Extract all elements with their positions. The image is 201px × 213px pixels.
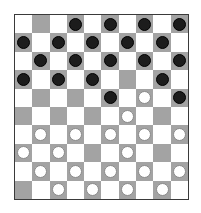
square-r3-c0[interactable]	[15, 70, 32, 88]
black-piece[interactable]	[104, 18, 117, 31]
white-piece[interactable]	[121, 110, 134, 123]
square-r3-c4[interactable]	[84, 70, 101, 88]
square-r3-c1	[32, 70, 49, 88]
square-r0-c3[interactable]	[67, 15, 84, 33]
black-piece[interactable]	[69, 18, 82, 31]
square-r6-c1[interactable]	[32, 125, 49, 143]
black-piece[interactable]	[17, 73, 30, 86]
square-r9-c0[interactable]	[15, 181, 32, 199]
square-r5-c4[interactable]	[84, 107, 101, 125]
square-r3-c6[interactable]	[119, 70, 136, 88]
white-piece[interactable]	[52, 183, 65, 196]
white-piece[interactable]	[69, 128, 82, 141]
square-r4-c5[interactable]	[101, 89, 118, 107]
square-r5-c8[interactable]	[153, 107, 170, 125]
square-r1-c6[interactable]	[119, 33, 136, 51]
white-piece[interactable]	[17, 146, 30, 159]
white-piece[interactable]	[173, 165, 186, 178]
square-r3-c8[interactable]	[153, 70, 170, 88]
white-piece[interactable]	[138, 91, 151, 104]
square-r1-c0[interactable]	[15, 33, 32, 51]
square-r0-c5[interactable]	[101, 15, 118, 33]
square-r1-c4[interactable]	[84, 33, 101, 51]
black-piece[interactable]	[86, 36, 99, 49]
square-r9-c9	[171, 181, 188, 199]
square-r7-c2[interactable]	[50, 144, 67, 162]
square-r0-c8	[153, 15, 170, 33]
square-r2-c1[interactable]	[32, 52, 49, 70]
black-piece[interactable]	[173, 18, 186, 31]
square-r7-c4[interactable]	[84, 144, 101, 162]
white-piece[interactable]	[104, 165, 117, 178]
black-piece[interactable]	[173, 91, 186, 104]
square-r1-c9	[171, 33, 188, 51]
square-r0-c9[interactable]	[171, 15, 188, 33]
white-piece[interactable]	[121, 146, 134, 159]
black-piece[interactable]	[121, 36, 134, 49]
black-piece[interactable]	[52, 36, 65, 49]
white-piece[interactable]	[34, 165, 47, 178]
square-r1-c8[interactable]	[153, 33, 170, 51]
square-r5-c6[interactable]	[119, 107, 136, 125]
square-r6-c9[interactable]	[171, 125, 188, 143]
square-r2-c7[interactable]	[136, 52, 153, 70]
square-r7-c0[interactable]	[15, 144, 32, 162]
square-r1-c7	[136, 33, 153, 51]
square-r8-c9[interactable]	[171, 162, 188, 180]
draughts-board	[14, 14, 189, 200]
square-r6-c3[interactable]	[67, 125, 84, 143]
white-piece[interactable]	[86, 183, 99, 196]
square-r9-c4[interactable]	[84, 181, 101, 199]
square-r3-c9	[171, 70, 188, 88]
white-piece[interactable]	[34, 128, 47, 141]
square-r2-c9[interactable]	[171, 52, 188, 70]
square-r5-c7	[136, 107, 153, 125]
square-r9-c2[interactable]	[50, 181, 67, 199]
square-r6-c7[interactable]	[136, 125, 153, 143]
white-piece[interactable]	[138, 128, 151, 141]
square-r7-c6[interactable]	[119, 144, 136, 162]
black-piece[interactable]	[104, 91, 117, 104]
square-r0-c7[interactable]	[136, 15, 153, 33]
black-piece[interactable]	[34, 54, 47, 67]
square-r5-c0[interactable]	[15, 107, 32, 125]
white-piece[interactable]	[156, 183, 169, 196]
square-r3-c2[interactable]	[50, 70, 67, 88]
square-r3-c7	[136, 70, 153, 88]
black-piece[interactable]	[17, 36, 30, 49]
square-r4-c1[interactable]	[32, 89, 49, 107]
black-piece[interactable]	[138, 18, 151, 31]
white-piece[interactable]	[173, 128, 186, 141]
square-r2-c5[interactable]	[101, 52, 118, 70]
white-piece[interactable]	[52, 146, 65, 159]
square-r4-c9[interactable]	[171, 89, 188, 107]
square-r8-c7[interactable]	[136, 162, 153, 180]
black-piece[interactable]	[104, 54, 117, 67]
square-r1-c2[interactable]	[50, 33, 67, 51]
white-piece[interactable]	[138, 165, 151, 178]
black-piece[interactable]	[156, 73, 169, 86]
square-r4-c7[interactable]	[136, 89, 153, 107]
white-piece[interactable]	[121, 183, 134, 196]
square-r5-c2[interactable]	[50, 107, 67, 125]
black-piece[interactable]	[138, 54, 151, 67]
square-r7-c8[interactable]	[153, 144, 170, 162]
square-r0-c1[interactable]	[32, 15, 49, 33]
square-r9-c8[interactable]	[153, 181, 170, 199]
square-r4-c3[interactable]	[67, 89, 84, 107]
black-piece[interactable]	[52, 73, 65, 86]
square-r8-c8	[153, 162, 170, 180]
white-piece[interactable]	[104, 128, 117, 141]
white-piece[interactable]	[69, 165, 82, 178]
square-r4-c4	[84, 89, 101, 107]
square-r9-c6[interactable]	[119, 181, 136, 199]
black-piece[interactable]	[69, 54, 82, 67]
square-r8-c3[interactable]	[67, 162, 84, 180]
square-r8-c5[interactable]	[101, 162, 118, 180]
square-r6-c5[interactable]	[101, 125, 118, 143]
square-r8-c1[interactable]	[32, 162, 49, 180]
black-piece[interactable]	[86, 73, 99, 86]
square-r2-c3[interactable]	[67, 52, 84, 70]
black-piece[interactable]	[156, 36, 169, 49]
black-piece[interactable]	[173, 54, 186, 67]
